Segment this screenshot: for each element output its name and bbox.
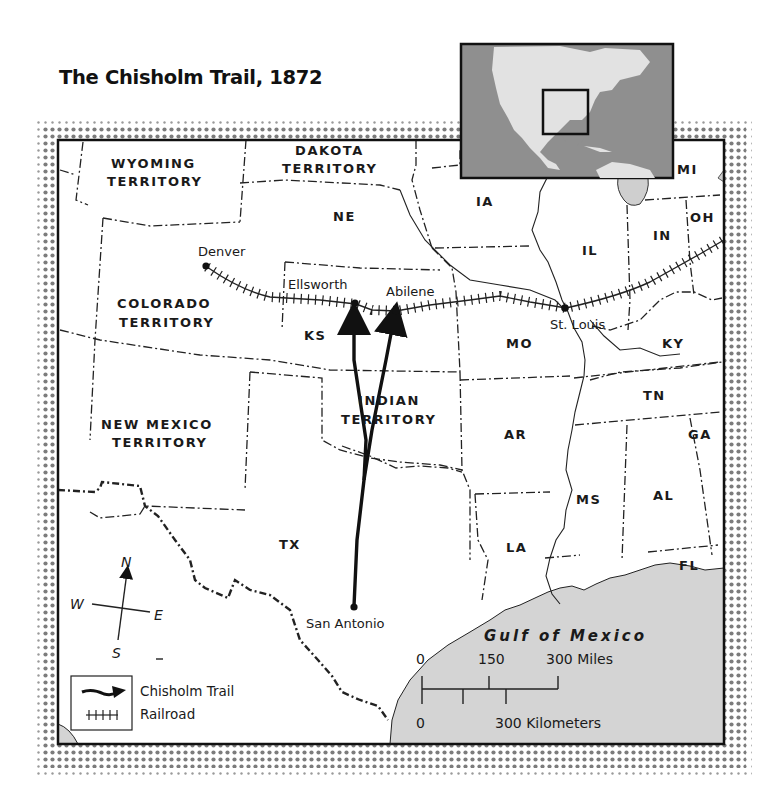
city-dot-st-louis [561,304,569,312]
locator-inset-map [461,44,673,178]
compass-east: E [154,607,163,623]
city-label-st-louis: St. Louis [550,317,605,332]
city-label-ellsworth: Ellsworth [288,277,347,292]
state-ms: MS [576,492,601,507]
state-oh: OH [690,210,715,225]
state-ga: GA [688,427,712,442]
city-label-abilene: Abilene [386,284,435,299]
state-ks: KS [304,328,326,343]
city-dot-denver [202,262,209,269]
scale-miles-150: 150 [478,651,505,667]
territory-wyoming-line2: TERRITORY [107,174,203,189]
scale-km-zero: 0 [416,715,425,731]
territory-indian-line1: INDIAN [358,393,420,408]
state-tx: TX [279,537,301,552]
legend-trail-label: Chisholm Trail [140,683,234,699]
state-fl: FL [679,558,699,573]
state-al: AL [653,488,674,503]
legend-railroad-label: Railroad [140,706,195,722]
city-label-san-antonio: San Antonio [306,616,385,631]
state-il: IL [582,243,598,258]
compass-west: W [70,596,85,612]
state-in: IN [653,228,672,243]
city-label-denver: Denver [198,244,246,259]
scale-miles-zero: 0 [416,651,425,667]
compass-south: S [112,645,121,661]
city-dot-ellsworth [351,299,358,306]
territory-colorado-line1: COLORADO [117,296,211,311]
territory-dakota-line1: DAKOTA [295,143,364,158]
state-mo: MO [506,336,533,351]
scale-km-end: 300 Kilometers [495,715,601,731]
state-ar: AR [504,427,527,442]
state-la: LA [506,540,527,555]
compass-north: N [121,554,132,570]
state-tn: TN [643,388,666,403]
legend-box [71,676,132,730]
territory-indian-line2: TERRITORY [341,412,437,427]
state-ia: IA [476,194,494,209]
territory-wyoming-line1: WYOMING [111,156,196,171]
chisholm-trail-map: Denver Ellsworth Abilene St. Louis San A… [0,0,780,810]
scale-miles-end: 300 Miles [546,651,613,667]
gulf-of-mexico-label: Gulf of Mexico [484,627,647,645]
territory-new-mexico-line1: NEW MEXICO [101,417,213,432]
state-mi: MI [677,162,698,177]
territory-new-mexico-line2: TERRITORY [112,435,208,450]
state-ky: KY [662,336,685,351]
territory-dakota-line2: TERRITORY [282,161,378,176]
territory-colorado-line2: TERRITORY [119,315,215,330]
state-ne: NE [333,209,356,224]
map-body: Denver Ellsworth Abilene St. Louis San A… [58,140,724,744]
city-dot-san-antonio [350,603,357,610]
city-dot-abilene [392,307,399,314]
